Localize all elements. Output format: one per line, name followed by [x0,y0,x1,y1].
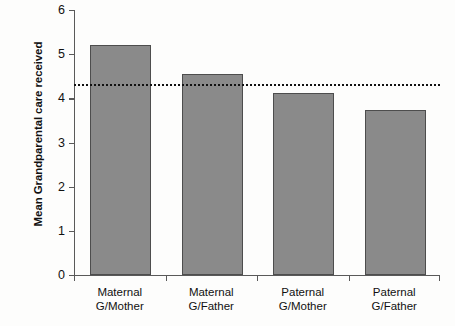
x-category-label-0-line-2: G/Mother [74,300,166,314]
x-tick-0 [74,275,75,281]
x-category-label-1-line-1: Maternal [166,286,258,300]
y-tick-1: 1 [69,231,74,232]
x-category-label-1: Maternal G/Father [166,286,258,313]
x-category-label-3: Paternal G/Father [349,286,441,313]
y-tick-label-4: 4 [35,92,65,105]
chart-figure: Mean Grandparental care received 6 5 4 3… [0,0,455,326]
bar-maternal-g-mother[interactable] [90,45,151,275]
y-tick-4: 4 [69,98,74,99]
y-tick-label-6: 6 [35,4,65,17]
plot-area: 6 5 4 3 2 1 0 [74,10,440,275]
x-category-label-0: Maternal G/Mother [74,286,166,313]
overall-mean-reference-line [74,84,440,86]
x-category-label-0-line-1: Maternal [74,286,166,300]
x-category-label-2: Paternal G/Mother [257,286,349,313]
y-tick-2: 2 [69,187,74,188]
x-tick-3 [349,275,350,281]
x-category-label-3-line-1: Paternal [349,286,441,300]
y-tick-label-0: 0 [35,269,65,282]
bar-maternal-g-father[interactable] [182,74,243,275]
bar-paternal-g-father[interactable] [365,110,426,275]
x-category-label-1-line-2: G/Father [166,300,258,314]
y-tick-label-3: 3 [35,136,65,149]
y-tick-label-5: 5 [35,48,65,61]
y-tick-label-2: 2 [35,180,65,193]
x-category-label-2-line-1: Paternal [257,286,349,300]
x-category-label-3-line-2: G/Father [349,300,441,314]
y-axis-line [74,10,75,275]
y-tick-6: 6 [69,10,74,11]
bar-paternal-g-mother[interactable] [273,93,334,275]
x-tick-2 [257,275,258,281]
y-axis-title: Mean Grandparental care received [32,9,44,259]
y-tick-3: 3 [69,143,74,144]
y-tick-5: 5 [69,54,74,55]
x-tick-4 [439,275,440,281]
x-category-label-2-line-2: G/Mother [257,300,349,314]
x-tick-1 [166,275,167,281]
y-tick-label-1: 1 [35,225,65,238]
